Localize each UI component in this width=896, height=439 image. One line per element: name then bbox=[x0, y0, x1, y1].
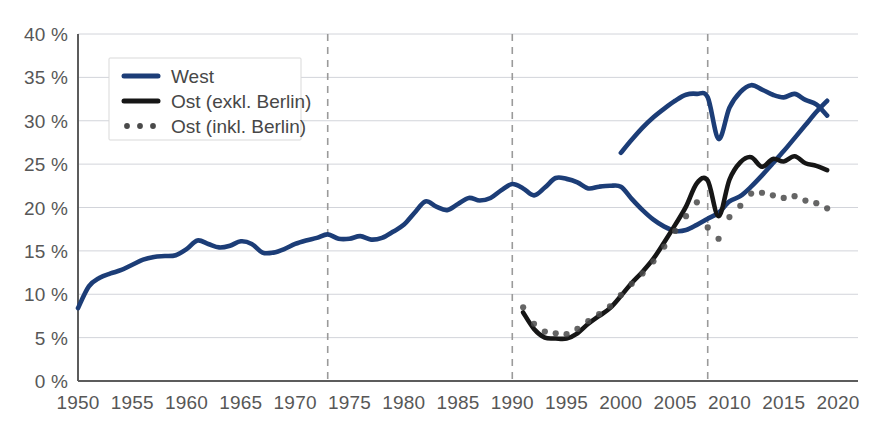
x-tick-label-2005: 2005 bbox=[654, 392, 697, 413]
x-tick-label-1975: 1975 bbox=[328, 392, 371, 413]
line-chart: 40 %35 %30 %25 %20 %15 %10 %5 %0 % 19501… bbox=[0, 0, 896, 439]
legend-marker-dot-2-1 bbox=[137, 123, 143, 129]
data-point-ost_inkl-1995 bbox=[563, 331, 569, 337]
x-tick-label-2010: 2010 bbox=[708, 392, 751, 413]
x-tick-label-1950: 1950 bbox=[56, 392, 99, 413]
series-ost_inkl bbox=[520, 190, 830, 338]
chart-legend: WestOst (exkl. Berlin)Ost (inkl. Berlin) bbox=[109, 58, 311, 140]
y-tick-label-25: 25 % bbox=[24, 154, 68, 175]
series-line-west_tail bbox=[621, 85, 827, 153]
legend-label-0: West bbox=[171, 66, 215, 87]
data-point-ost_inkl-2006 bbox=[683, 213, 689, 219]
data-point-ost_inkl-1993 bbox=[542, 328, 548, 334]
data-point-ost_inkl-2001 bbox=[629, 281, 635, 287]
y-axis-tick-labels: 40 %35 %30 %25 %20 %15 %10 %5 %0 % bbox=[24, 24, 68, 392]
data-point-ost_inkl-1997 bbox=[585, 318, 591, 324]
data-point-ost_inkl-2003 bbox=[650, 258, 656, 264]
series-line-ost_exkl bbox=[523, 156, 827, 339]
data-point-ost_inkl-2014 bbox=[770, 192, 776, 198]
data-point-ost_inkl-2017 bbox=[802, 197, 808, 203]
x-tick-label-1995: 1995 bbox=[545, 392, 588, 413]
data-point-ost_inkl-1998 bbox=[596, 311, 602, 317]
data-point-ost_inkl-2007 bbox=[694, 199, 700, 205]
data-point-ost_inkl-2002 bbox=[639, 270, 645, 276]
y-tick-label-0: 0 % bbox=[35, 371, 68, 392]
data-point-ost_inkl-1992 bbox=[531, 321, 537, 327]
x-tick-label-1980: 1980 bbox=[382, 392, 425, 413]
y-tick-label-20: 20 % bbox=[24, 198, 68, 219]
data-point-ost_inkl-1994 bbox=[553, 330, 559, 336]
data-point-ost_inkl-1991 bbox=[520, 304, 526, 310]
y-tick-label-35: 35 % bbox=[24, 67, 68, 88]
data-point-ost_inkl-2012 bbox=[748, 191, 754, 197]
x-tick-label-1970: 1970 bbox=[274, 392, 317, 413]
y-tick-label-15: 15 % bbox=[24, 241, 68, 262]
legend-label-1: Ost (exkl. Berlin) bbox=[171, 91, 311, 112]
data-point-ost_inkl-2010 bbox=[726, 214, 732, 220]
data-point-ost_inkl-2016 bbox=[791, 193, 797, 199]
data-point-ost_inkl-2005 bbox=[672, 228, 678, 234]
data-point-ost_inkl-2013 bbox=[759, 190, 765, 196]
data-point-ost_inkl-2019 bbox=[824, 205, 830, 211]
y-tick-label-30: 30 % bbox=[24, 111, 68, 132]
x-tick-label-1965: 1965 bbox=[219, 392, 262, 413]
data-point-ost_inkl-2015 bbox=[781, 195, 787, 201]
data-point-ost_inkl-2009 bbox=[715, 236, 721, 242]
x-tick-label-1960: 1960 bbox=[165, 392, 208, 413]
legend-label-2: Ost (inkl. Berlin) bbox=[171, 116, 306, 137]
x-axis-tick-labels: 1950195519601965197019751980198519901995… bbox=[56, 392, 859, 413]
x-tick-label-1955: 1955 bbox=[111, 392, 154, 413]
data-point-ost_inkl-2011 bbox=[737, 203, 743, 209]
data-point-ost_inkl-1996 bbox=[574, 326, 580, 332]
x-tick-label-1990: 1990 bbox=[491, 392, 534, 413]
legend-marker-dot-2-0 bbox=[124, 123, 130, 129]
legend-marker-dot-2-2 bbox=[150, 123, 156, 129]
data-point-ost_inkl-1999 bbox=[607, 303, 613, 309]
y-tick-label-10: 10 % bbox=[24, 284, 68, 305]
data-point-ost_inkl-2008 bbox=[705, 224, 711, 230]
y-tick-label-40: 40 % bbox=[24, 24, 68, 45]
data-point-ost_inkl-2004 bbox=[661, 243, 667, 249]
x-tick-label-1985: 1985 bbox=[436, 392, 479, 413]
data-point-ost_inkl-2000 bbox=[618, 292, 624, 298]
x-tick-label-2020: 2020 bbox=[816, 392, 859, 413]
x-tick-label-2000: 2000 bbox=[599, 392, 642, 413]
chart-container: 40 %35 %30 %25 %20 %15 %10 %5 %0 % 19501… bbox=[0, 0, 896, 439]
y-tick-label-5: 5 % bbox=[35, 328, 68, 349]
data-point-ost_inkl-2018 bbox=[813, 200, 819, 206]
x-tick-label-2015: 2015 bbox=[762, 392, 805, 413]
